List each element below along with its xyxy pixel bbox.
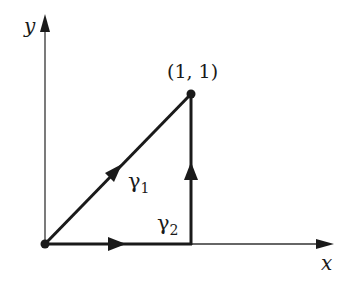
x-axis-arrowhead-icon xyxy=(316,239,334,249)
y-axis-label: y xyxy=(23,14,36,38)
gamma1-label-sub: 1 xyxy=(141,180,150,196)
y-axis-arrowhead-icon xyxy=(40,14,50,32)
endpoint-point xyxy=(187,90,196,99)
gamma2-horizontal-arrow-icon xyxy=(108,237,126,251)
gamma2-vertical-arrow-icon xyxy=(184,162,198,180)
contour-diagram: y x (1, 1) γ1 γ2 xyxy=(0,0,354,281)
gamma2-label: γ2 xyxy=(157,211,178,238)
gamma1-label: γ1 xyxy=(128,169,149,196)
origin-point xyxy=(41,240,50,249)
gamma2-label-base: γ xyxy=(157,211,170,235)
gamma1-label-base: γ xyxy=(128,169,141,193)
x-axis-label: x xyxy=(321,251,332,275)
endpoint-label: (1, 1) xyxy=(167,60,218,82)
gamma2-label-sub: 2 xyxy=(170,222,179,238)
